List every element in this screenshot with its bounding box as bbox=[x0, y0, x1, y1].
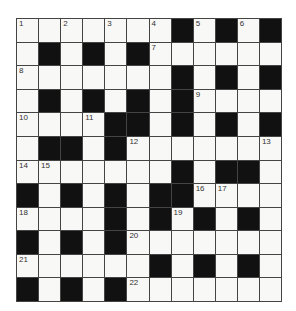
grid-cell[interactable]: 18 bbox=[17, 208, 38, 231]
grid-cell[interactable] bbox=[216, 255, 237, 278]
grid-cell[interactable] bbox=[216, 137, 237, 160]
grid-cell[interactable] bbox=[127, 255, 148, 278]
grid-cell[interactable]: 15 bbox=[39, 161, 60, 184]
grid-cell[interactable] bbox=[150, 137, 171, 160]
grid-cell[interactable] bbox=[260, 278, 281, 301]
grid-cell[interactable] bbox=[127, 208, 148, 231]
grid-cell[interactable] bbox=[61, 255, 82, 278]
grid-cell[interactable] bbox=[61, 113, 82, 136]
grid-cell[interactable] bbox=[61, 90, 82, 113]
grid-cell[interactable] bbox=[194, 231, 215, 254]
grid-cell[interactable] bbox=[172, 231, 193, 254]
grid-cell[interactable] bbox=[83, 208, 104, 231]
grid-cell[interactable] bbox=[238, 43, 259, 66]
grid-cell[interactable] bbox=[238, 137, 259, 160]
grid-cell[interactable] bbox=[216, 278, 237, 301]
grid-cell[interactable] bbox=[83, 19, 104, 42]
grid-cell[interactable] bbox=[83, 161, 104, 184]
grid-cell[interactable]: 1 bbox=[17, 19, 38, 42]
grid-cell[interactable]: 19 bbox=[172, 208, 193, 231]
grid-cell[interactable]: 8 bbox=[17, 66, 38, 89]
grid-cell[interactable] bbox=[150, 66, 171, 89]
grid-cell[interactable] bbox=[238, 184, 259, 207]
grid-cell[interactable] bbox=[39, 255, 60, 278]
grid-cell[interactable] bbox=[39, 184, 60, 207]
grid-cell[interactable]: 4 bbox=[150, 19, 171, 42]
grid-cell[interactable]: 20 bbox=[127, 231, 148, 254]
grid-cell[interactable] bbox=[17, 137, 38, 160]
grid-cell[interactable] bbox=[216, 208, 237, 231]
grid-cell[interactable]: 5 bbox=[194, 19, 215, 42]
grid-cell[interactable]: 2 bbox=[61, 19, 82, 42]
grid-cell[interactable] bbox=[238, 278, 259, 301]
grid-cell[interactable] bbox=[61, 208, 82, 231]
grid-cell[interactable]: 22 bbox=[127, 278, 148, 301]
grid-cell[interactable] bbox=[172, 137, 193, 160]
grid-cell[interactable] bbox=[260, 231, 281, 254]
grid-cell[interactable] bbox=[216, 43, 237, 66]
grid-cell[interactable] bbox=[83, 255, 104, 278]
grid-cell[interactable] bbox=[172, 255, 193, 278]
grid-cell[interactable]: 12 bbox=[127, 137, 148, 160]
grid-cell[interactable] bbox=[172, 43, 193, 66]
grid-cell[interactable] bbox=[260, 184, 281, 207]
grid-cell[interactable] bbox=[150, 278, 171, 301]
grid-cell[interactable] bbox=[127, 184, 148, 207]
grid-cell[interactable]: 9 bbox=[194, 90, 215, 113]
grid-cell[interactable] bbox=[238, 231, 259, 254]
grid-cell[interactable] bbox=[105, 255, 126, 278]
grid-cell[interactable] bbox=[61, 43, 82, 66]
grid-cell[interactable] bbox=[260, 90, 281, 113]
grid-cell[interactable] bbox=[194, 137, 215, 160]
grid-cell[interactable] bbox=[127, 19, 148, 42]
grid-cell[interactable] bbox=[260, 255, 281, 278]
grid-cell[interactable] bbox=[194, 113, 215, 136]
grid-cell[interactable] bbox=[150, 161, 171, 184]
grid-cell[interactable] bbox=[150, 113, 171, 136]
grid-cell[interactable]: 17 bbox=[216, 184, 237, 207]
grid-cell[interactable]: 21 bbox=[17, 255, 38, 278]
grid-cell[interactable] bbox=[83, 184, 104, 207]
grid-cell[interactable] bbox=[83, 231, 104, 254]
grid-cell[interactable] bbox=[105, 161, 126, 184]
grid-cell[interactable] bbox=[39, 19, 60, 42]
grid-cell[interactable] bbox=[238, 66, 259, 89]
grid-cell[interactable] bbox=[216, 90, 237, 113]
grid-cell[interactable] bbox=[61, 66, 82, 89]
grid-cell[interactable] bbox=[194, 66, 215, 89]
grid-cell[interactable] bbox=[39, 278, 60, 301]
grid-cell[interactable] bbox=[83, 278, 104, 301]
grid-cell[interactable] bbox=[105, 90, 126, 113]
grid-cell[interactable] bbox=[127, 66, 148, 89]
grid-cell[interactable] bbox=[17, 43, 38, 66]
grid-cell[interactable] bbox=[83, 66, 104, 89]
grid-cell[interactable]: 16 bbox=[194, 184, 215, 207]
grid-cell[interactable]: 6 bbox=[238, 19, 259, 42]
grid-cell[interactable] bbox=[150, 90, 171, 113]
grid-cell[interactable]: 3 bbox=[105, 19, 126, 42]
grid-cell[interactable] bbox=[61, 161, 82, 184]
grid-cell[interactable] bbox=[260, 43, 281, 66]
grid-cell[interactable] bbox=[172, 278, 193, 301]
grid-cell[interactable] bbox=[105, 43, 126, 66]
grid-cell[interactable] bbox=[83, 137, 104, 160]
grid-cell[interactable] bbox=[39, 208, 60, 231]
grid-cell[interactable] bbox=[39, 113, 60, 136]
grid-cell[interactable] bbox=[260, 208, 281, 231]
grid-cell[interactable] bbox=[17, 90, 38, 113]
grid-cell[interactable]: 11 bbox=[83, 113, 104, 136]
grid-cell[interactable] bbox=[150, 231, 171, 254]
grid-cell[interactable] bbox=[127, 161, 148, 184]
grid-cell[interactable]: 10 bbox=[17, 113, 38, 136]
grid-cell[interactable] bbox=[194, 278, 215, 301]
grid-cell[interactable] bbox=[260, 161, 281, 184]
grid-cell[interactable] bbox=[105, 66, 126, 89]
grid-cell[interactable] bbox=[238, 90, 259, 113]
grid-cell[interactable]: 7 bbox=[150, 43, 171, 66]
grid-cell[interactable] bbox=[194, 43, 215, 66]
grid-cell[interactable] bbox=[39, 66, 60, 89]
grid-cell[interactable] bbox=[194, 161, 215, 184]
grid-cell[interactable]: 13 bbox=[260, 137, 281, 160]
grid-cell[interactable] bbox=[39, 231, 60, 254]
grid-cell[interactable]: 14 bbox=[17, 161, 38, 184]
